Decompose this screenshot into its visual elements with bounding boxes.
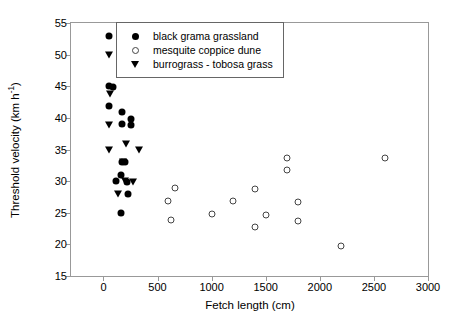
data-point — [123, 178, 130, 185]
data-point — [122, 140, 130, 147]
filled-triangle-down-icon — [131, 61, 139, 68]
data-point — [122, 159, 129, 166]
data-point — [106, 83, 113, 90]
open-circle-icon — [132, 47, 139, 54]
legend-item-label: black grama grassland — [153, 31, 259, 42]
x-axis-tick-label: 500 — [148, 282, 166, 293]
filled-circle-icon — [132, 33, 139, 40]
y-axis-tick-label: 50 — [55, 49, 67, 60]
y-axis-title-tail: ) — [9, 82, 21, 86]
data-point — [295, 198, 302, 205]
legend-marker-filled-circle — [125, 33, 145, 40]
data-point — [105, 52, 113, 59]
data-point — [118, 210, 125, 217]
y-axis-title-main: Threshold velocity (km h — [9, 93, 21, 218]
legend-item-label: mesquite coppice dune — [153, 45, 261, 56]
legend-item: black grama grassland — [125, 29, 273, 43]
data-point — [106, 102, 113, 109]
data-point — [105, 147, 113, 154]
data-point — [295, 217, 302, 224]
data-point — [251, 223, 258, 230]
legend-item: mesquite coppice dune — [125, 43, 273, 57]
data-point — [109, 83, 116, 90]
data-point — [284, 154, 291, 161]
y-axis-tick-label: 35 — [55, 144, 67, 155]
data-point — [114, 190, 122, 197]
y-axis-tick-label: 55 — [55, 18, 67, 29]
data-point — [121, 178, 129, 185]
data-point — [118, 108, 125, 115]
x-axis-tick-label: 2500 — [362, 282, 386, 293]
data-point — [165, 198, 172, 205]
data-point — [112, 178, 119, 185]
data-point — [106, 33, 113, 40]
data-point — [208, 211, 215, 218]
data-point — [105, 121, 113, 128]
x-axis-tick-label: 1000 — [199, 282, 223, 293]
data-point — [106, 90, 114, 97]
data-point — [129, 178, 137, 185]
y-axis-tick-label: 20 — [55, 239, 67, 250]
data-point — [230, 198, 237, 205]
y-axis-title: Threshold velocity (km h-1) — [7, 82, 21, 218]
legend-marker-filled-triangle-down — [125, 61, 145, 68]
data-point — [251, 185, 258, 192]
data-point — [167, 216, 174, 223]
data-point — [381, 155, 388, 162]
data-point — [284, 167, 291, 174]
legend-item: burrograss - tobosa grass — [125, 57, 273, 71]
chart-legend: black grama grasslandmesquite coppice du… — [116, 22, 284, 78]
y-axis-tick-label: 25 — [55, 207, 67, 218]
y-axis-tick-label: 40 — [55, 112, 67, 123]
data-point — [171, 185, 178, 192]
y-axis-tick-label: 15 — [55, 271, 67, 282]
data-point — [127, 116, 134, 123]
scatter-chart-figure: Threshold velocity (km h-1) Fetch length… — [0, 0, 449, 330]
data-point — [118, 121, 125, 128]
data-point — [135, 147, 143, 154]
data-point — [338, 243, 345, 250]
x-axis-tick-label: 3000 — [416, 282, 440, 293]
legend-marker-open-circle — [125, 47, 145, 54]
x-axis-tick-label: 2000 — [308, 282, 332, 293]
y-axis-tick-label: 45 — [55, 81, 67, 92]
data-point — [127, 121, 134, 128]
y-axis-tick-label: 30 — [55, 176, 67, 187]
x-axis-tick-label: 0 — [100, 282, 106, 293]
data-point — [117, 171, 124, 178]
data-point — [125, 190, 132, 197]
y-axis-title-exponent: -1 — [7, 86, 16, 93]
legend-item-label: burrograss - tobosa grass — [153, 59, 273, 70]
data-point — [119, 159, 127, 166]
data-point — [119, 158, 126, 165]
data-point — [262, 211, 269, 218]
x-axis-title: Fetch length (cm) — [205, 299, 294, 311]
x-axis-tick-label: 1500 — [253, 282, 277, 293]
